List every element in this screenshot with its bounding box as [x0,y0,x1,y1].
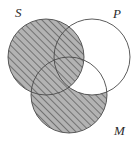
venn-diagram-figure: S P M [0,0,138,145]
circle-label-s: S [15,6,22,19]
circle-label-p: P [113,7,121,20]
circle-label-m: M [114,124,125,137]
